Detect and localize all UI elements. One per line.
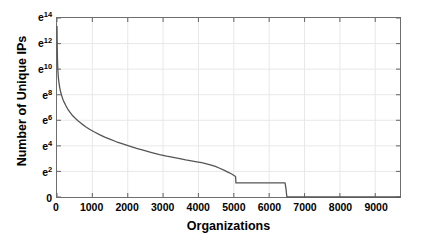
x-tick-label: 0 [53, 201, 59, 213]
x-tick-label: 9000 [364, 201, 387, 213]
x-axis-title: Organizations [56, 219, 401, 233]
x-tick-label: 8000 [329, 201, 352, 213]
data-series-curve [57, 18, 400, 197]
y-tick-label: e14 [38, 11, 52, 23]
x-tick-label: 3000 [151, 201, 174, 213]
y-tick-label: e8 [42, 89, 52, 101]
y-axis-tick-labels: 0e2e4e6e8e10e12e14 [0, 17, 52, 198]
x-tick-label: 1000 [80, 201, 103, 213]
x-tick-label: 5000 [222, 201, 245, 213]
x-tick-label: 6000 [258, 201, 281, 213]
y-tick-label: 0 [46, 192, 52, 204]
x-axis-tick-labels: 0100020003000400050006000700080009000 [56, 201, 401, 217]
plot-area [56, 17, 401, 198]
y-tick-label: e4 [42, 140, 52, 152]
x-tick-label: 7000 [293, 201, 316, 213]
y-tick-label: e2 [42, 166, 52, 178]
chart-figure: Number of Unique IPs 0e2e4e6e8e10e12e14 … [0, 0, 421, 246]
x-tick-label: 4000 [187, 201, 210, 213]
y-tick-label: e10 [38, 63, 52, 75]
y-tick-label: e12 [38, 37, 52, 49]
y-tick-label: e6 [42, 114, 52, 126]
series-line [57, 26, 400, 197]
x-tick-label: 2000 [115, 201, 138, 213]
